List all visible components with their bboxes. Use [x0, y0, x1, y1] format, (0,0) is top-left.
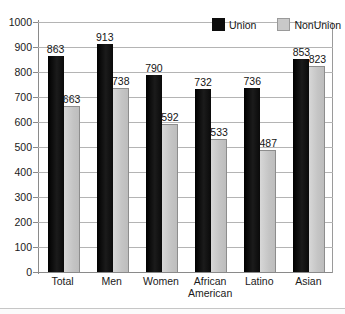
x-axis-line	[38, 272, 333, 273]
category-label-asian: Asian	[278, 276, 339, 288]
legend-item-union[interactable]: Union	[212, 18, 256, 31]
gridline	[38, 197, 333, 198]
gridline	[38, 247, 333, 248]
bar-nonunion-men[interactable]	[113, 88, 129, 273]
y-axis-tick	[33, 272, 38, 273]
bar-value-label: 487	[253, 138, 283, 149]
bar-union-african-american[interactable]	[195, 89, 211, 272]
gridline	[38, 122, 333, 123]
union-swatch-icon	[212, 18, 225, 31]
bar-chart: 01002003004005006007008009001000 8636639…	[0, 0, 345, 314]
plot-area	[38, 22, 333, 272]
y-axis-tick-label: 100	[14, 242, 32, 252]
gridline	[38, 222, 333, 223]
bar-value-label: 738	[106, 76, 136, 87]
y-axis-tick-label: 600	[14, 117, 32, 127]
bar-nonunion-women[interactable]	[162, 124, 178, 272]
nonunion-swatch-icon	[277, 18, 290, 31]
y-axis-tick-label: 500	[14, 142, 32, 152]
y-axis-tick-label: 800	[14, 67, 32, 77]
bar-union-asian[interactable]	[293, 59, 309, 272]
bottom-band	[0, 309, 345, 314]
bar-value-label: 823	[302, 54, 332, 65]
bar-value-label: 533	[204, 127, 234, 138]
bar-value-label: 592	[155, 112, 185, 123]
bar-value-label: 863	[41, 44, 71, 55]
bar-nonunion-asian[interactable]	[309, 66, 325, 272]
bar-value-label: 790	[139, 63, 169, 74]
bar-union-women[interactable]	[146, 75, 162, 273]
bar-value-label: 732	[188, 77, 218, 88]
gridline	[38, 147, 333, 148]
bar-nonunion-total[interactable]	[64, 106, 80, 272]
y-axis-tick-label: 900	[14, 42, 32, 52]
legend-item-nonunion[interactable]: NonUnion	[277, 18, 341, 31]
y-axis-tick-label: 300	[14, 192, 32, 202]
bar-nonunion-latino[interactable]	[260, 150, 276, 272]
y-axis-tick-label: 200	[14, 217, 32, 227]
y-axis-tick-label: 700	[14, 92, 32, 102]
legend-label-union: Union	[229, 19, 256, 31]
bar-value-label: 663	[57, 94, 87, 105]
chart-legend: Union NonUnion	[212, 18, 341, 31]
legend-label-nonunion: NonUnion	[294, 19, 341, 31]
bar-nonunion-african-american[interactable]	[211, 139, 227, 272]
bar-value-label: 913	[90, 32, 120, 43]
y-axis-tick-label: 1000	[9, 17, 32, 27]
y-axis-tick-label: 400	[14, 167, 32, 177]
bar-union-total[interactable]	[48, 56, 64, 272]
bar-value-label: 736	[237, 76, 267, 87]
gridline	[38, 172, 333, 173]
gridline	[38, 72, 333, 73]
bar-union-latino[interactable]	[244, 88, 260, 272]
